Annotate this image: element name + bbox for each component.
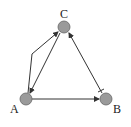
node-label-c: C bbox=[60, 7, 68, 21]
network-diagram: C A B bbox=[0, 0, 131, 127]
edge-a-to-c bbox=[28, 32, 58, 93]
node-label-b: B bbox=[113, 102, 121, 116]
node-a bbox=[20, 93, 32, 105]
node-c bbox=[58, 21, 70, 33]
node-b bbox=[100, 93, 112, 105]
edge-c-to-a bbox=[30, 33, 60, 93]
edge-b-to-c bbox=[69, 33, 102, 93]
node-label-a: A bbox=[10, 102, 19, 116]
